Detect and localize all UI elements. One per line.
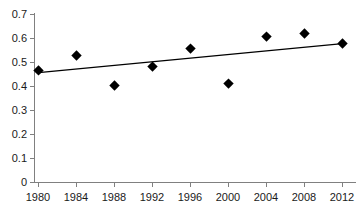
x-tick-label: 2008 [292,191,316,203]
data-point-marker [147,61,157,71]
y-axis-ticks [30,15,35,183]
x-tick-label: 1984 [64,191,88,203]
y-tick-label: 0.6 [12,32,27,44]
data-point-marker [71,50,81,60]
chart-canvas: 0 0.1 0.2 0.3 0.4 0.5 0.6 0.7 1980 1984 … [0,0,362,214]
data-point-marker [185,43,195,53]
x-tick-label: 1980 [26,191,50,203]
x-axis-tick-labels: 1980 1984 1988 1992 1996 2000 2004 2008 … [26,191,354,203]
data-point-marker [109,80,119,90]
x-tick-label: 2000 [216,191,240,203]
data-point-marker [261,31,271,41]
x-tick-label: 1992 [140,191,164,203]
y-tick-label: 0.4 [12,80,27,92]
y-tick-label: 0.7 [12,8,27,20]
y-tick-label: 0.3 [12,104,27,116]
x-tick-label: 1988 [102,191,126,203]
data-point-marker [337,38,347,48]
x-axis-ticks [39,183,343,188]
x-tick-label: 2004 [254,191,278,203]
y-axis-tick-labels: 0 0.1 0.2 0.3 0.4 0.5 0.6 0.7 [12,8,27,188]
data-point-group [33,28,347,90]
scatter-chart: 0 0.1 0.2 0.3 0.4 0.5 0.6 0.7 1980 1984 … [0,0,362,214]
data-point-marker [223,78,233,88]
x-tick-label: 2012 [330,191,354,203]
x-tick-label: 1996 [178,191,202,203]
y-tick-label: 0.1 [12,152,27,164]
y-tick-label: 0 [21,176,27,188]
y-tick-label: 0.5 [12,56,27,68]
y-tick-label: 0.2 [12,128,27,140]
data-point-marker [299,28,309,38]
